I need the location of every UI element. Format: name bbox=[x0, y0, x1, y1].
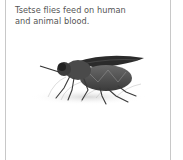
caption-text: Tsetse flies feed on human and animal bl… bbox=[15, 5, 135, 26]
tsetse-fly-illustration bbox=[26, 52, 156, 114]
info-card: Tsetse flies feed on human and animal bl… bbox=[5, 0, 171, 160]
